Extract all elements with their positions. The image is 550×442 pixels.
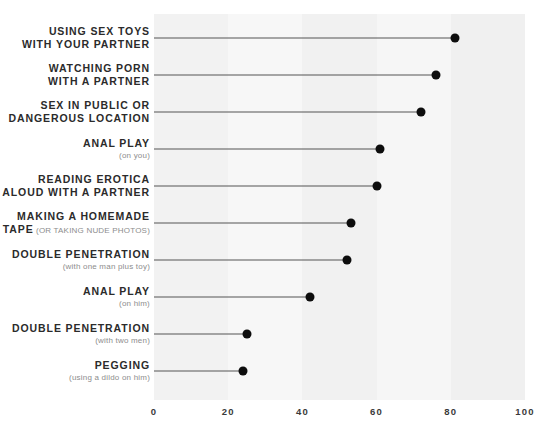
row-stem — [154, 112, 421, 113]
row-label-line1: Anal Play — [0, 285, 150, 298]
row-sublabel: (or taking nude photos) — [34, 226, 150, 235]
row-stem — [154, 149, 380, 150]
x-axis-tick-label: 40 — [296, 406, 309, 417]
row-label-group: Reading EroticaAloud With a Partner — [0, 173, 150, 199]
lollipop-chart: Using Sex ToysWith Your PartnerWatching … — [0, 0, 550, 442]
data-point-dot — [376, 145, 385, 154]
row-sublabel: (on you) — [0, 151, 150, 161]
row-label-line2: Dangerous Location — [0, 112, 150, 125]
row-label-line2: Sex Tape (or taking nude photos) — [0, 223, 150, 236]
background-band-2 — [302, 14, 376, 400]
row-label-line2: With Your Partner — [0, 38, 150, 51]
row-label-line1: Using Sex Toys — [0, 25, 150, 38]
row-label-line1: Making a Homemade — [0, 210, 150, 223]
row-stem — [154, 260, 347, 261]
row-stem — [154, 223, 351, 224]
row-sublabel: (using a dildo on him) — [0, 373, 150, 383]
x-axis-tick-label: 20 — [222, 406, 235, 417]
row-label-group: Anal Play(on him) — [0, 285, 150, 309]
row-label-group: Sex In Public orDangerous Location — [0, 99, 150, 125]
row-label-group: Pegging(using a dildo on him) — [0, 359, 150, 383]
background-band-4 — [451, 14, 525, 400]
data-point-dot — [450, 34, 459, 43]
row-label-line1: Pegging — [0, 359, 150, 372]
row-label-line2: With a Partner — [0, 75, 150, 88]
data-point-dot — [417, 108, 426, 117]
row-label-line1: Reading Erotica — [0, 173, 150, 186]
background-band-0 — [154, 14, 228, 400]
row-label-line1: Anal Play — [0, 137, 150, 150]
row-label-line1: Sex In Public or — [0, 99, 150, 112]
data-point-dot — [431, 71, 440, 80]
row-stem — [154, 38, 455, 39]
row-label-group: Double Penetration(with two men) — [0, 322, 150, 346]
x-axis: 020406080100 — [0, 406, 550, 430]
row-label-group: Making a HomemadeSex Tape (or taking nud… — [0, 210, 150, 236]
data-point-dot — [372, 182, 381, 191]
row-label-group: Double Penetration(with one man plus toy… — [0, 248, 150, 272]
x-axis-tick-label: 100 — [515, 406, 534, 417]
row-label-line2-text: Sex Tape — [0, 223, 34, 235]
x-axis-tick-label: 60 — [370, 406, 383, 417]
x-axis-tick-label: 80 — [444, 406, 457, 417]
x-axis-tick-label: 0 — [151, 406, 157, 417]
row-stem — [154, 75, 436, 76]
row-sublabel: (with one man plus toy) — [0, 262, 150, 272]
row-stem — [154, 334, 247, 335]
data-point-dot — [346, 219, 355, 228]
row-stem — [154, 297, 310, 298]
row-label-line1: Double Penetration — [0, 248, 150, 261]
row-stem — [154, 371, 243, 372]
data-point-dot — [242, 330, 251, 339]
background-band-1 — [228, 14, 302, 400]
data-point-dot — [342, 256, 351, 265]
data-point-dot — [239, 367, 248, 376]
plot-area — [154, 14, 525, 400]
row-sublabel: (on him) — [0, 299, 150, 309]
row-label-line1: Watching Porn — [0, 62, 150, 75]
row-label-line2: Aloud With a Partner — [0, 186, 150, 199]
data-point-dot — [305, 293, 314, 302]
row-label-group: Anal Play(on you) — [0, 137, 150, 161]
row-label-group: Using Sex ToysWith Your Partner — [0, 25, 150, 51]
row-sublabel: (with two men) — [0, 336, 150, 346]
row-label-line1: Double Penetration — [0, 322, 150, 335]
row-label-group: Watching PornWith a Partner — [0, 62, 150, 88]
row-stem — [154, 186, 377, 187]
